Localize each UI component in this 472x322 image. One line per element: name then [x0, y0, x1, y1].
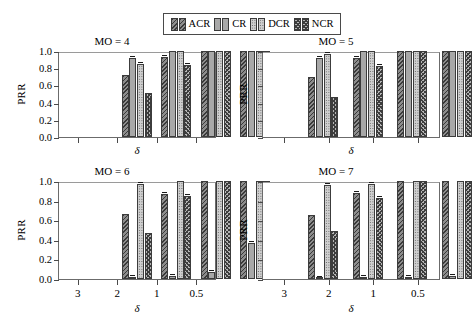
plot-area — [58, 182, 216, 280]
y-tick-mark — [54, 221, 59, 222]
bar-ncr — [465, 51, 472, 137]
bar-ncr — [376, 66, 383, 137]
bar-ncr — [331, 97, 338, 137]
plot-area — [58, 52, 216, 138]
bar-cr — [169, 276, 176, 279]
bar-cr — [449, 51, 456, 137]
y-tick-mark — [258, 121, 263, 122]
y-tick-mark — [258, 69, 263, 70]
bar-dcr — [457, 181, 464, 279]
bar-cr — [360, 51, 367, 137]
x-tick-mark — [329, 138, 330, 143]
bar-cr — [449, 276, 456, 279]
y-tick-label: 0.0 — [24, 275, 52, 286]
y-tick-label: 0.8 — [24, 64, 52, 75]
bar-dcr — [324, 54, 331, 137]
legend-entry-acr: ACR — [169, 18, 213, 31]
error-bar-mark — [130, 56, 135, 57]
error-bar-mark — [317, 276, 322, 277]
x-tick-mark — [373, 280, 374, 285]
bar-acr — [308, 77, 315, 137]
error-bar-mark — [354, 56, 359, 57]
bar-acr — [397, 181, 404, 279]
bar-cr — [208, 272, 215, 279]
bar-acr — [201, 51, 208, 137]
bar-acr — [122, 214, 129, 279]
bar-ncr — [420, 51, 427, 137]
panel-bottom-right: MO = 7PRR3210.5δ — [224, 166, 448, 322]
x-axis-label: δ — [58, 302, 216, 314]
bar-ncr — [184, 65, 191, 137]
error-bar-mark — [130, 275, 135, 276]
legend-swatch-box — [214, 18, 221, 31]
bar-ncr — [184, 196, 191, 279]
x-tick-mark — [78, 280, 79, 285]
y-tick-mark — [258, 182, 263, 183]
plot-area — [262, 182, 440, 280]
chart-legend: ACRCRDCRNCR — [163, 13, 341, 35]
bar-cr — [405, 277, 412, 279]
bar-acr — [161, 194, 168, 279]
bar-acr — [442, 51, 449, 137]
x-tick-mark — [418, 280, 419, 285]
y-tick-mark — [54, 241, 59, 242]
x-tick-mark — [117, 138, 118, 143]
bar-ncr — [145, 233, 152, 279]
y-tick-mark — [258, 138, 263, 139]
x-tick-mark — [418, 138, 419, 143]
error-bar-mark — [325, 52, 330, 53]
legend-swatch-box — [222, 18, 229, 31]
error-bar-mark — [185, 194, 190, 195]
bar-cr — [129, 277, 136, 279]
x-tick-mark — [329, 280, 330, 285]
bar-dcr — [216, 181, 223, 279]
error-bar-mark — [369, 182, 374, 183]
legend-entry-dcr: DCR — [248, 18, 292, 31]
panel-top-right: MO = 5PRRδ — [224, 36, 448, 164]
y-tick-mark — [54, 260, 59, 261]
x-tick-mark — [157, 280, 158, 285]
error-bar-mark — [185, 63, 190, 64]
legend-swatch-acr-icon — [171, 18, 186, 31]
x-tick-mark — [196, 280, 197, 285]
x-tick-label: 1 — [355, 288, 391, 299]
x-tick-label: 0.5 — [178, 288, 214, 299]
error-bar-mark — [377, 196, 382, 197]
y-tick-mark — [258, 260, 263, 261]
error-bar-mark — [450, 274, 455, 275]
legend-swatch-ncr-icon — [294, 18, 309, 31]
bar-dcr — [216, 51, 223, 137]
error-bar-mark — [162, 192, 167, 193]
y-tick-mark — [258, 104, 263, 105]
bar-cr — [405, 51, 412, 137]
panel-title: MO = 4 — [0, 36, 224, 47]
legend-swatch-box — [302, 18, 309, 31]
legend-swatch-box — [250, 18, 257, 31]
bar-acr — [353, 193, 360, 279]
error-bar-mark — [138, 182, 143, 183]
x-tick-mark — [284, 138, 285, 143]
y-tick-label: 0.0 — [24, 133, 52, 144]
x-tick-label: 3 — [60, 288, 96, 299]
y-tick-mark — [258, 202, 263, 203]
y-axis-label: PRR — [237, 79, 249, 109]
legend-entry-ncr: NCR — [292, 18, 336, 31]
x-axis-label: δ — [262, 144, 440, 156]
y-tick-mark — [54, 138, 59, 139]
bar-dcr — [137, 64, 144, 137]
error-bar-mark — [138, 62, 143, 63]
y-tick-mark — [54, 69, 59, 70]
panel-title: MO = 6 — [0, 166, 224, 177]
x-tick-label: 2 — [99, 288, 135, 299]
bar-dcr — [368, 51, 375, 137]
x-tick-mark — [78, 138, 79, 143]
bar-acr — [397, 51, 404, 137]
y-tick-mark — [54, 182, 59, 183]
legend-swatch-box — [171, 18, 178, 31]
y-tick-label: 0.8 — [24, 197, 52, 208]
y-tick-mark — [54, 86, 59, 87]
error-bar-mark — [209, 270, 214, 271]
y-tick-label: 0.4 — [24, 99, 52, 110]
legend-swatch-dcr-icon — [250, 18, 265, 31]
y-tick-label: 0.6 — [24, 216, 52, 227]
